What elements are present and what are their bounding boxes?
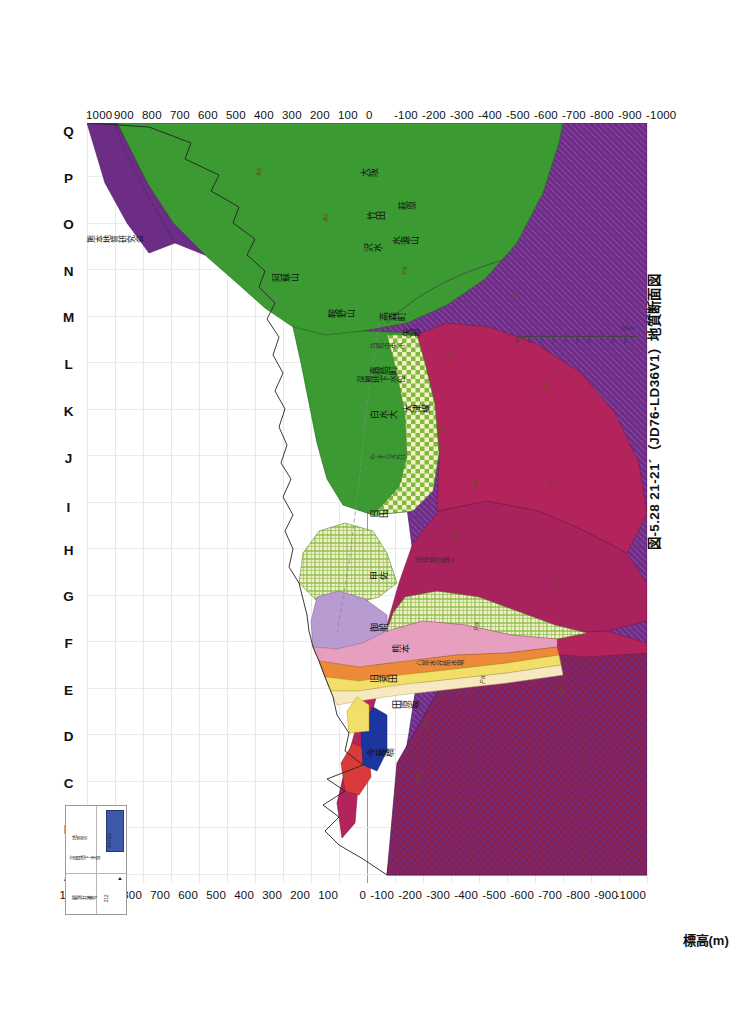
section-letter-K: K [64,404,74,419]
scale-number-2: 2 [540,338,543,344]
publisher-credit: 熊本地質研究会 [87,234,143,245]
scale-number-4: 4 [564,338,567,344]
scale-tick-1 [529,332,530,337]
section-letter-I: I [67,500,71,515]
scale-number-8: 8 [612,338,615,344]
scale-tick-3 [553,332,554,337]
scale-number-6: 6 [588,338,591,344]
scale-tick-9 [625,332,626,337]
scale-bar: 10km 0123456789 [517,325,649,351]
section-letter-E: E [64,683,73,698]
figure-caption: 図-5.28 21-21´（JD76-LD36V1）地質断面図 [643,274,663,550]
section-letter-D: D [64,729,74,744]
scale-bar-unit: 10km [621,325,634,331]
section-letter-M: M [63,310,74,325]
section-letter-P: P [64,171,73,186]
scale-number-5: 5 [576,338,579,344]
scale-tick-5 [577,332,578,337]
legend-row-1: 深層地下水位 [70,856,100,862]
section-letter-Q: Q [63,124,74,139]
section-letter-F: F [64,637,72,652]
section-letter-N: N [64,264,74,279]
section-letter-O: O [63,217,74,232]
section-letter-J: J [65,451,73,466]
legend-pointer-icon [118,877,122,880]
geological-cross-section-figure: 今藤橋田原坂旧菊田八景水谷給水場熊本御船甲佐砥用地区第一日田やすらぎ荘白水大大津… [47,65,687,945]
scale-tick-8 [613,332,614,337]
section-letter-labels: ABCDEFGHIJKLMNOPQ [47,65,687,945]
axis-title: 標高(m) [683,930,729,949]
legend-swatch-label: 熊本平野部 [107,833,112,848]
scale-tick-4 [565,332,566,337]
scale-tick-2 [541,332,542,337]
legend-row-0: 観測井番号 [72,896,97,902]
legend-box: 観測井番号 深層地下水位 地質区 212 熊本平野部 [65,805,127,915]
groundwater-label: 深層地下水位 [357,374,405,385]
scale-tick-7 [601,332,602,337]
scale-number-7: 7 [600,338,603,344]
section-letter-L: L [64,358,72,373]
scale-number-3: 3 [552,338,555,344]
figure-sheet: 今藤橋田原坂旧菊田八景水谷給水場熊本御船甲佐砥用地区第一日田やすらぎ荘白水大大津… [0,0,734,1010]
legend-code: 212 [104,894,109,902]
scale-number-1: 1 [528,338,531,344]
section-letter-G: G [63,589,74,604]
legend-row-2: 地質区 [72,836,87,842]
scale-tick-0 [517,332,518,337]
section-letter-H: H [64,543,74,558]
scale-tick-6 [589,332,590,337]
scale-number-0: 0 [516,338,519,344]
scale-number-9: 9 [624,338,627,344]
section-letter-C: C [64,776,74,791]
